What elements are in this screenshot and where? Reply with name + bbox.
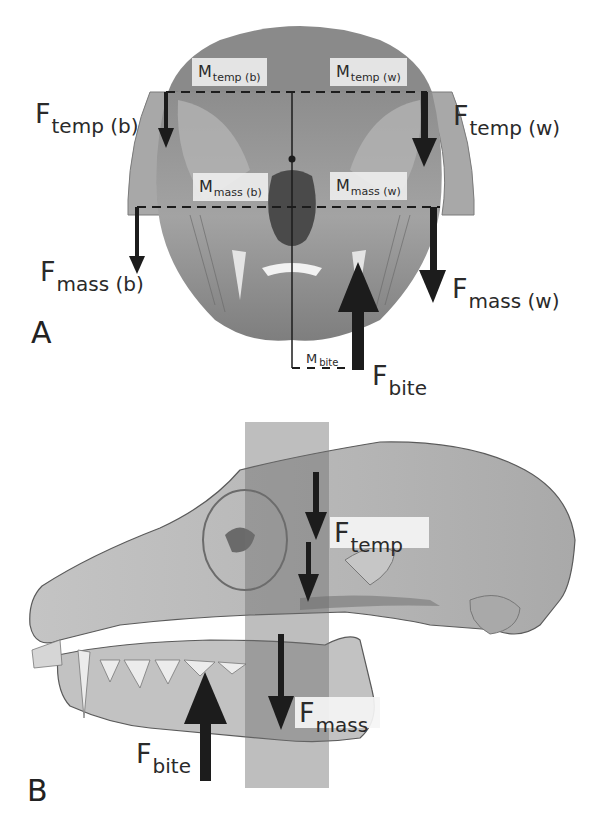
label-main: F — [334, 517, 350, 548]
label-main: F — [35, 98, 51, 129]
label-f-bite-a: Fbite — [372, 362, 427, 389]
pivot-point-icon — [289, 156, 296, 163]
label-sub: mass (b) — [57, 272, 144, 296]
label-f-mass: Fmass — [295, 697, 380, 728]
label-m-temp-b: Mtemp (b) — [192, 58, 267, 86]
label-sub: temp — [351, 533, 403, 557]
label-main: M — [336, 62, 350, 81]
label-main: F — [299, 697, 315, 728]
label-sub: temp (b) — [213, 71, 261, 84]
label-f-temp-w: Ftemp (w) — [453, 102, 560, 129]
label-main: F — [372, 360, 388, 391]
label-main: F — [453, 100, 469, 131]
label-f-temp-b: Ftemp (b) — [35, 100, 139, 127]
label-main: F — [40, 256, 56, 287]
panel-letter-a: A — [31, 318, 52, 348]
label-m-temp-w: Mtemp (w) — [330, 58, 407, 86]
label-main: M — [199, 177, 213, 196]
label-main: M — [198, 62, 212, 81]
label-sub: temp (w) — [470, 116, 561, 140]
figure: Mtemp (b) Mtemp (w) Mmass (b) Mmass (w) … — [0, 0, 602, 828]
label-sub: bite — [153, 754, 191, 778]
label-sub: bite — [389, 376, 427, 400]
label-sub: mass (w) — [469, 289, 560, 313]
label-main: M — [336, 176, 350, 195]
label-f-mass-b: Fmass (b) — [40, 258, 144, 285]
panel-a-skull — [128, 26, 474, 341]
label-sub: bite — [319, 357, 338, 368]
label-f-temp: Ftemp — [330, 517, 429, 548]
label-sub: mass (w) — [351, 185, 401, 198]
label-f-bite-b: Fbite — [136, 740, 191, 767]
label-main: M — [306, 351, 317, 366]
label-sub: temp (w) — [351, 71, 401, 84]
label-sub: mass (b) — [214, 186, 262, 199]
label-m-bite: Mbite — [306, 352, 338, 365]
label-main: F — [136, 738, 152, 769]
label-f-mass-w: Fmass (w) — [452, 275, 559, 302]
label-m-mass-b: Mmass (b) — [193, 173, 268, 201]
label-m-mass-w: Mmass (w) — [330, 172, 407, 200]
panel-letter-b: B — [27, 776, 48, 806]
label-sub: mass — [316, 713, 369, 737]
label-sub: temp (b) — [52, 114, 139, 138]
label-main: F — [452, 273, 468, 304]
